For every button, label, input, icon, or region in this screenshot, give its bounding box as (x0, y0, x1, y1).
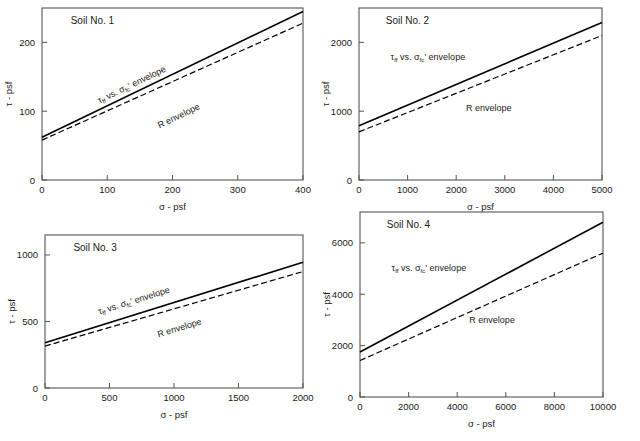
plot-frame (45, 235, 303, 388)
x-axis-title: σ - psf (161, 409, 188, 420)
annotation-r-envelope: R envelope (466, 103, 512, 113)
chart-svg-1: 01002003004000100200σ - psfτ - psfSoil N… (0, 0, 315, 226)
panel-title: Soil No. 3 (73, 242, 117, 253)
x-tick-label: 1500 (228, 392, 249, 403)
y-axis-title: τ - psf (320, 81, 331, 106)
x-tick-label: 5000 (591, 184, 612, 195)
x-tick-label: 500 (102, 392, 118, 403)
y-axis-title: τ - psf (6, 299, 17, 324)
y-tick-label: 4000 (332, 289, 353, 300)
x-tick-label: 1000 (397, 184, 418, 195)
x-tick-label: 10000 (590, 401, 616, 412)
chart-svg-3: 050010001500200005001000σ - psfτ - psfSo… (0, 225, 315, 434)
x-tick-label: 0 (356, 184, 361, 195)
y-tick-label: 0 (33, 383, 38, 394)
chart-svg-4: 02000400060008000100000200040006000σ - p… (314, 202, 615, 441)
y-tick-label: 0 (348, 392, 353, 403)
x-tick-label: 2000 (446, 184, 467, 195)
annotation-r-envelope: R envelope (156, 101, 201, 130)
plot-frame (359, 8, 602, 180)
x-tick-label: 400 (295, 184, 311, 195)
y-tick-label: 200 (19, 37, 35, 48)
annotation-r-envelope: R envelope (156, 316, 202, 339)
y-tick-label: 1000 (17, 249, 38, 260)
chart-panel-4: 02000400060008000100000200040006000σ - p… (314, 202, 615, 441)
annotation-r-envelope: R envelope (469, 315, 515, 325)
x-tick-label: 6000 (495, 401, 516, 412)
x-axis-title: σ - psf (159, 201, 186, 212)
series-tff-envelope (360, 222, 603, 352)
series-r-envelope (359, 36, 602, 132)
x-tick-label: 4000 (543, 184, 564, 195)
y-axis-title: τ - psf (321, 292, 332, 317)
x-tick-label: 8000 (544, 401, 565, 412)
chart-svg-2: 010002000300040005000010002000σ - psfτ -… (313, 0, 614, 226)
x-tick-label: 100 (99, 184, 115, 195)
x-axis-title: σ - psf (468, 418, 495, 429)
x-tick-label: 0 (39, 184, 44, 195)
annotation-tff-envelope: τff vs. σfc' envelope (392, 263, 467, 274)
y-tick-label: 0 (347, 175, 352, 186)
x-tick-label: 200 (165, 184, 181, 195)
y-axis-title: τ - psf (3, 81, 14, 106)
x-tick-label: 1000 (163, 392, 184, 403)
chart-panel-1: 01002003004000100200σ - psfτ - psfSoil N… (0, 0, 315, 226)
panel-title: Soil No. 4 (387, 219, 431, 230)
y-tick-label: 500 (22, 316, 38, 327)
panel-title: Soil No. 2 (386, 15, 430, 26)
chart-panel-2: 010002000300040005000010002000σ - psfτ -… (313, 0, 614, 226)
annotation-tff-envelope: τff vs. σfc' envelope (391, 52, 466, 63)
series-r-envelope (45, 272, 303, 347)
x-tick-label: 2000 (398, 401, 419, 412)
x-tick-label: 0 (42, 392, 47, 403)
plot-frame (42, 8, 303, 180)
y-tick-label: 2000 (332, 340, 353, 351)
y-tick-label: 0 (30, 175, 35, 186)
plot-frame (360, 212, 603, 397)
y-tick-label: 6000 (332, 237, 353, 248)
y-tick-label: 2000 (331, 37, 352, 48)
x-tick-label: 3000 (494, 184, 515, 195)
x-tick-label: 0 (357, 401, 362, 412)
panel-title: Soil No. 1 (71, 15, 115, 26)
y-tick-label: 100 (19, 106, 35, 117)
annotation-tff-envelope: τff vs. σfc' envelope (96, 64, 168, 106)
figure-four-soil-envelopes: 01002003004000100200σ - psfτ - psfSoil N… (0, 0, 640, 441)
x-tick-label: 2000 (292, 392, 313, 403)
x-tick-label: 4000 (447, 401, 468, 412)
x-tick-label: 300 (230, 184, 246, 195)
y-tick-label: 1000 (331, 106, 352, 117)
chart-panel-3: 050010001500200005001000σ - psfτ - psfSo… (0, 225, 315, 434)
